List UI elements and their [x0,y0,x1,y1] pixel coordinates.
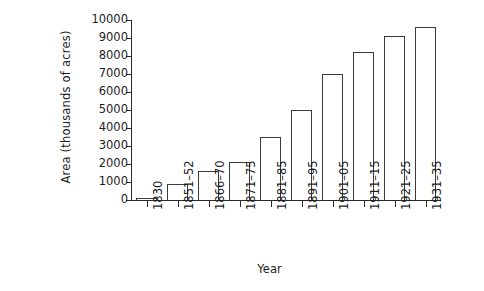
plot-area: 0100020003000400050006000700080009000100… [131,20,441,200]
x-tick-label: 1871–75 [244,160,258,210]
y-axis-title: Area (thousands of acres) [59,0,73,217]
x-tick-mark [209,201,210,207]
x-tick-label: 1901–05 [337,160,351,210]
y-tick-label: 7000 [99,66,128,80]
x-tick-mark [333,201,334,207]
x-tick-mark [178,201,179,207]
x-tick-label: 1881–85 [275,160,289,210]
y-tick-label: 10000 [91,12,128,26]
y-tick-label: 8000 [99,48,128,62]
y-tick-label: 1000 [99,174,128,188]
y-tick-label: 0 [121,192,128,206]
x-axis-title-wrap: Year [0,262,484,276]
x-tick-label: 1866–70 [213,160,227,210]
y-axis-line [131,20,132,200]
x-tick-label: 1911–15 [368,160,382,210]
x-tick-mark [426,201,427,207]
y-tick-label: 2000 [99,156,128,170]
x-tick-mark [395,201,396,207]
x-axis-title: Year [257,262,281,276]
x-tick-mark [364,201,365,207]
x-tick-label: 1830 [151,181,165,210]
x-tick-label: 1931–35 [430,160,444,210]
bar-chart-figure: Area (thousands of acres) 01000200030004… [0,0,484,291]
x-tick-label: 1921–25 [399,160,413,210]
x-tick-mark [240,201,241,207]
y-tick-label: 5000 [99,102,128,116]
y-tick-label: 9000 [99,30,128,44]
x-tick-label: 1891–95 [306,160,320,210]
y-tick-label: 4000 [99,120,128,134]
y-tick-label: 3000 [99,138,128,152]
x-tick-label: 1851–52 [182,160,196,210]
x-tick-mark [271,201,272,207]
y-tick-label: 6000 [99,84,128,98]
x-tick-mark [147,201,148,207]
x-tick-mark [302,201,303,207]
